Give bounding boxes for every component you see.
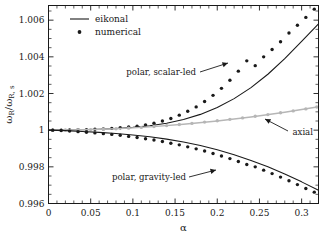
data-point	[245, 59, 248, 62]
data-point	[127, 126, 130, 129]
data-point	[102, 132, 105, 135]
annotation-label: polar, scalar-led	[126, 67, 196, 77]
y-tick-label: 1.004	[19, 52, 45, 62]
x-tick-label: 0.1	[126, 208, 140, 218]
data-point	[102, 128, 105, 131]
data-point	[144, 137, 147, 140]
chart-canvas: 00.050.10.150.20.250.3α1.0061.0041.00210…	[0, 0, 329, 233]
data-point	[152, 122, 155, 125]
data-point	[186, 110, 189, 113]
data-point	[165, 124, 168, 127]
data-point	[211, 94, 214, 97]
data-point	[93, 131, 96, 134]
y-tick-label: 0.996	[19, 199, 45, 209]
x-tick-label: 0.15	[165, 208, 185, 218]
data-point	[152, 125, 155, 128]
data-point	[313, 190, 316, 193]
legend-label: eikonal	[95, 14, 128, 24]
data-point	[304, 107, 307, 110]
data-point	[287, 179, 290, 182]
data-point	[228, 157, 231, 160]
data-point	[220, 87, 223, 90]
data-point	[220, 154, 223, 157]
data-point	[216, 119, 219, 122]
legend-dot-swatch	[78, 30, 82, 34]
data-point	[194, 147, 197, 150]
data-point	[203, 120, 206, 123]
data-point	[241, 116, 244, 119]
y-axis-label: ωR/ωR, s	[3, 85, 16, 124]
data-point	[178, 143, 181, 146]
figure-root: 00.050.10.150.20.250.3α1.0061.0041.00210…	[0, 0, 329, 233]
data-point	[291, 109, 294, 112]
legend-label: numerical	[95, 27, 141, 37]
data-point	[254, 64, 257, 67]
data-point	[203, 149, 206, 152]
data-point	[270, 48, 273, 51]
data-point	[114, 127, 117, 130]
data-point	[135, 136, 138, 139]
data-point	[237, 69, 240, 72]
data-point	[304, 16, 307, 19]
data-point	[119, 134, 122, 137]
data-point	[245, 163, 248, 166]
data-point	[161, 140, 164, 143]
x-tick-label: 0.05	[81, 208, 101, 218]
data-point	[211, 152, 214, 155]
data-point	[194, 105, 197, 108]
data-point	[313, 7, 316, 10]
data-point	[237, 160, 240, 163]
x-tick-label: 0.25	[249, 208, 269, 218]
x-tick-label: 0.3	[294, 208, 309, 218]
data-point	[152, 138, 155, 141]
data-point	[186, 145, 189, 148]
data-point	[190, 122, 193, 125]
data-point	[262, 55, 265, 58]
data-point	[144, 123, 147, 126]
data-point	[270, 172, 273, 175]
annotation-label: axial	[292, 127, 313, 137]
data-point	[140, 126, 143, 129]
annotation-label: polar, gravity-led	[112, 172, 187, 182]
y-tick-label: 0.998	[19, 162, 45, 172]
x-tick-label: 0.2	[210, 208, 224, 218]
data-point	[279, 111, 282, 114]
data-point	[279, 175, 282, 178]
x-axis-label: α	[180, 222, 187, 233]
data-point	[169, 117, 172, 120]
data-point	[315, 105, 318, 108]
data-point	[254, 165, 257, 168]
data-point	[89, 128, 92, 131]
data-point	[68, 129, 71, 132]
data-point	[161, 119, 164, 122]
data-point	[127, 135, 130, 138]
data-point	[203, 100, 206, 103]
y-tick-label: 1.002	[19, 89, 45, 99]
data-point	[178, 123, 181, 126]
data-point	[254, 115, 257, 118]
data-point	[279, 40, 282, 43]
data-point	[228, 118, 231, 121]
data-point	[76, 130, 79, 133]
data-point	[262, 168, 265, 171]
data-point	[169, 141, 172, 144]
data-point	[85, 130, 88, 133]
data-point	[59, 129, 62, 132]
data-point	[287, 31, 290, 34]
data-point	[228, 79, 231, 82]
data-point	[296, 24, 299, 27]
y-tick-label: 1	[39, 125, 45, 135]
data-point	[304, 187, 307, 190]
data-point	[266, 113, 269, 116]
data-point	[296, 183, 299, 186]
data-point	[178, 113, 181, 116]
y-tick-label: 1.006	[19, 15, 45, 25]
x-tick-label: 0	[46, 208, 52, 218]
data-point	[110, 133, 113, 136]
